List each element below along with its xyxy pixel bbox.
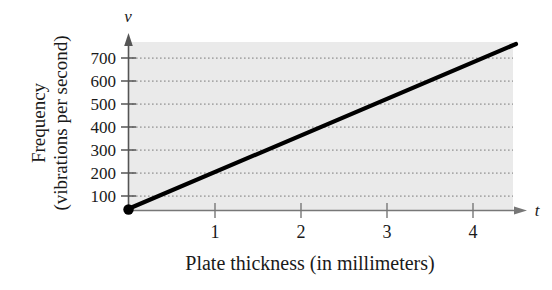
chart-plot: 700 600 500 400 300 200 100 1 2 3 4 (0, 0, 552, 250)
figure-root: Frequency (vibrations per second) (0, 0, 552, 290)
y-tick-labels: 700 600 500 400 300 200 100 (91, 49, 117, 206)
y-axis-variable-label: v (124, 7, 132, 26)
y-tick-label: 500 (91, 95, 117, 114)
x-tick-label: 1 (211, 222, 220, 242)
x-tick-labels: 1 2 3 4 (211, 222, 478, 242)
y-tick-label: 400 (91, 118, 117, 137)
x-tick-label: 3 (383, 222, 392, 242)
y-tick-label: 200 (91, 164, 117, 183)
y-tick-label: 600 (91, 72, 117, 91)
y-tick-label: 300 (91, 141, 117, 160)
y-tick-label: 100 (91, 187, 117, 206)
series-start-point (123, 204, 133, 214)
x-axis-variable-label: t (535, 201, 541, 220)
x-axis-caption: Plate thickness (in millimeters) (100, 252, 520, 275)
x-tick-label: 2 (297, 222, 306, 242)
y-tick-label: 700 (91, 49, 117, 68)
x-tick-label: 4 (469, 222, 478, 242)
